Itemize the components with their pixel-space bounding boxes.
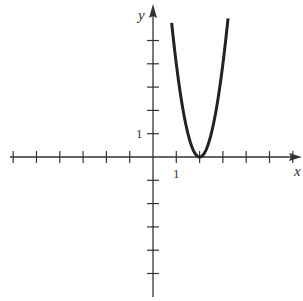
y-axis-label: y — [136, 7, 145, 23]
axes — [10, 4, 302, 297]
x-axis-label: x — [293, 163, 301, 179]
y-tick-label-1: 1 — [136, 126, 143, 141]
parabola-curve — [172, 18, 228, 157]
graph-canvas: x y 1 1 — [0, 0, 303, 301]
y-axis-arrow-icon — [149, 4, 157, 18]
x-tick-label-1: 1 — [173, 166, 180, 181]
